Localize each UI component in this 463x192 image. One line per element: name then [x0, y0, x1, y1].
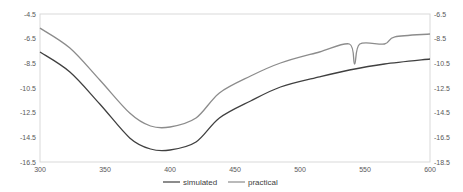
legend: simulated practical [163, 178, 278, 187]
y-right-tick-label: -14.5 [434, 109, 450, 116]
series-line-simulated [40, 52, 430, 151]
legend-label-practical: practical [248, 178, 278, 187]
x-tick-label: 500 [294, 166, 306, 173]
y-left-tick-label: -16.5 [20, 159, 36, 166]
x-tick-label: 450 [229, 166, 241, 173]
y-left-tick-label: -6.5 [24, 35, 36, 42]
x-tick-label: 300 [34, 166, 46, 173]
y-right-tick-label: -6.5 [434, 11, 446, 18]
y-right-tick-label: -10.5 [434, 60, 450, 67]
x-tick-label: 350 [99, 166, 111, 173]
y-right-tick-label: -12.5 [434, 85, 450, 92]
y-left-tick-label: -4.5 [24, 11, 36, 18]
x-tick-label: 550 [359, 166, 371, 173]
x-tick-label: 400 [164, 166, 176, 173]
y-left-tick-label: -8.5 [24, 60, 36, 67]
y-right-tick-label: -8.5 [434, 35, 446, 42]
y-left-tick-label: -14.5 [20, 134, 36, 141]
x-axis-ticks: 300350400450500550600 [34, 166, 436, 173]
x-tick-label: 600 [424, 166, 436, 173]
legend-label-simulated: simulated [183, 178, 217, 187]
y-left-tick-label: -10.5 [20, 85, 36, 92]
y-left-tick-label: -12.5 [20, 109, 36, 116]
y-axis-right-ticks: -6.5-8.5-10.5-12.5-14.5-16.5-18.5 [434, 11, 450, 166]
y-right-tick-label: -16.5 [434, 134, 450, 141]
y-right-tick-label: -18.5 [434, 159, 450, 166]
plot-area [40, 14, 430, 162]
y-axis-left-ticks: -4.5-6.5-8.5-10.5-12.5-14.5-16.5 [20, 11, 36, 166]
series-line-practical [40, 28, 430, 128]
plot-border [40, 14, 430, 162]
dual-axis-line-chart: 300350400450500550600 -4.5-6.5-8.5-10.5-… [0, 0, 463, 192]
series-lines [40, 28, 430, 151]
